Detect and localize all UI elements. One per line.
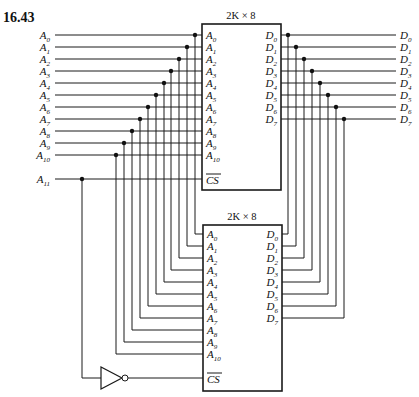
chip-bottom-cs-label: CS (207, 373, 220, 385)
data-branch-D1 (282, 47, 296, 246)
figure-number: 16.43 (3, 10, 35, 25)
junction-dot (302, 57, 306, 61)
junction-dot (122, 141, 126, 145)
address-branch-A2 (179, 59, 203, 258)
inverter-gate (101, 367, 128, 389)
chip-bottom-title: 2K × 8 (227, 211, 256, 222)
data-branch-D7 (282, 119, 344, 318)
junction-dot (318, 81, 322, 85)
junction-dot (286, 33, 290, 37)
address-branch-A8 (132, 131, 203, 330)
memory-expansion-diagram: 16.43 2K × 8 2K × 8 A0A0A0A1A1A1A2A2A2A3… (0, 0, 419, 397)
junction-dot (193, 33, 197, 37)
junction-dot (169, 69, 173, 73)
junction-dot (177, 57, 181, 61)
junction-dot (114, 153, 118, 157)
junction-dot (146, 105, 150, 109)
data-branch-D0 (282, 35, 288, 234)
data-branch-D3 (282, 71, 312, 270)
junction-dot (154, 93, 158, 97)
junction-dot (138, 117, 142, 121)
data-branch-D2 (282, 59, 304, 258)
chip-top-cs-label: CS (206, 174, 219, 186)
junction-dot (185, 45, 189, 49)
junction-dot (342, 117, 346, 121)
address-branch-A4 (164, 83, 203, 282)
address-branch-A10 (116, 155, 203, 354)
junction-dot (162, 81, 166, 85)
junction-dot (334, 105, 338, 109)
junction-dot (326, 93, 330, 97)
junction-dot (80, 177, 84, 181)
a11-branch (82, 179, 101, 378)
chip-top-title: 2K × 8 (226, 10, 255, 21)
junction-dot (130, 129, 134, 133)
junction-dot (310, 69, 314, 73)
input-label-A11: A11 (36, 173, 50, 188)
data-branch-D5 (282, 95, 328, 294)
junction-dot (294, 45, 298, 49)
